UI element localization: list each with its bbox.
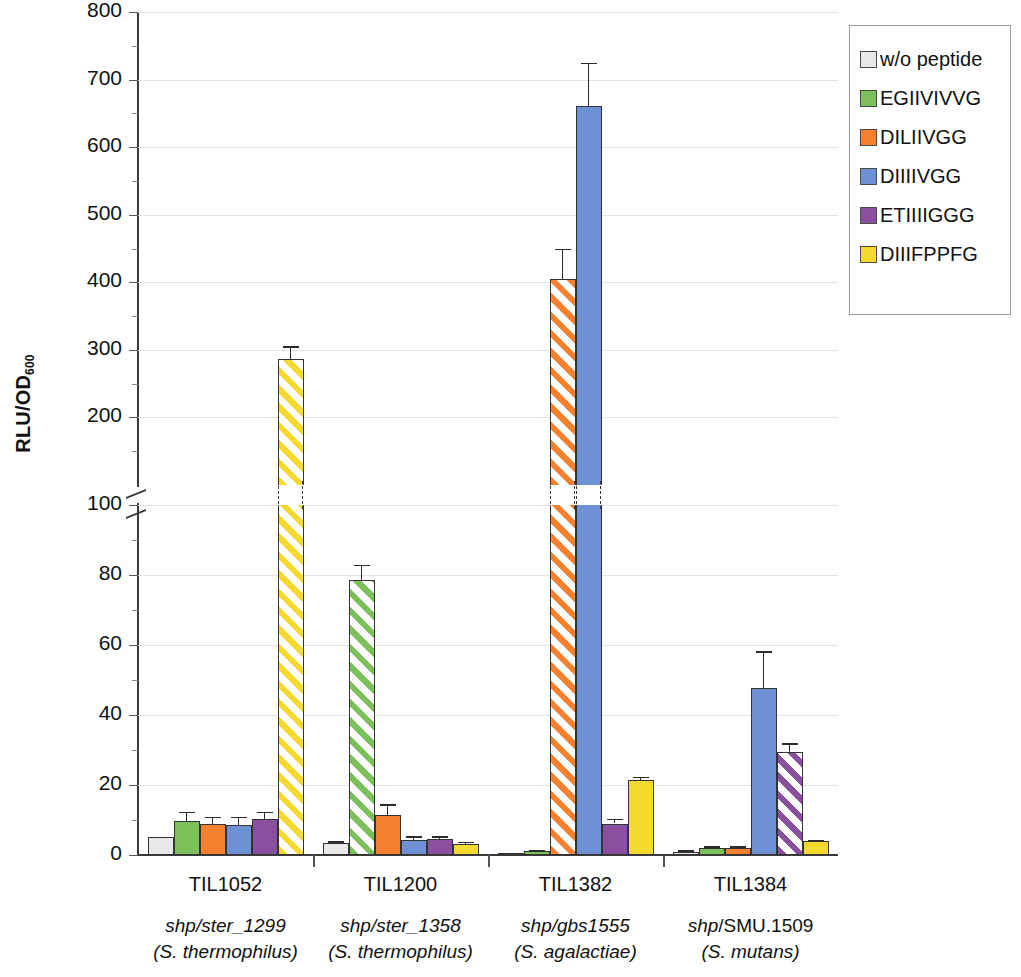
minor-tick-550 <box>132 181 138 182</box>
legend-item-5: DIIIFPPFG <box>860 235 1010 274</box>
minor-tick-450 <box>132 249 138 250</box>
error-bar-cap <box>730 846 746 848</box>
gridline-400 <box>138 282 838 283</box>
error-bar-cap <box>555 249 571 251</box>
y-tick-label-600: 600 <box>87 133 122 157</box>
legend-swatch-icon <box>860 168 877 185</box>
bar <box>803 841 829 855</box>
error-bar <box>588 63 590 106</box>
error-bar-cap <box>406 836 422 838</box>
minor-tick-70 <box>132 610 138 611</box>
bar <box>453 844 479 855</box>
y-tick-label-800: 800 <box>87 0 122 22</box>
gridline-600 <box>138 147 838 148</box>
major-tick-20 <box>129 785 138 786</box>
error-bar-cap <box>205 817 221 819</box>
bar <box>148 837 174 855</box>
error-bar-cap <box>231 817 247 819</box>
minor-tick-10 <box>132 820 138 821</box>
legend-label: DIIIFPPFG <box>880 243 978 266</box>
minor-tick-350 <box>132 316 138 317</box>
y-axis-title-subscript: 600 <box>23 354 37 375</box>
legend-label: w/o peptide <box>880 48 982 71</box>
gridline-100 <box>138 505 838 506</box>
error-bar-cap <box>704 846 720 848</box>
error-bar-cap <box>328 841 344 843</box>
bar <box>602 824 628 856</box>
error-bar-cap <box>581 63 597 65</box>
bar <box>777 752 803 855</box>
bar-break-edge-1 <box>576 481 577 509</box>
bar <box>401 840 427 855</box>
x-group-gene-name: shp/SMU.1509 <box>631 913 871 939</box>
bar <box>725 848 751 855</box>
y-tick-label-40: 40 <box>99 701 122 725</box>
minor-tick-90 <box>132 540 138 541</box>
gridline-500 <box>138 215 838 216</box>
y-tick-label-0: 0 <box>110 841 122 865</box>
y-axis-title-main: RLU/OD <box>12 375 34 453</box>
y-axis-line <box>137 12 139 855</box>
error-bar-cap <box>756 651 772 653</box>
legend-item-2: DILIIVGG <box>860 118 1010 157</box>
y-tick-label-200: 200 <box>87 403 122 427</box>
legend-item-3: DIIIIVGG <box>860 157 1010 196</box>
x-group-species-name: (S. mutans) <box>631 939 871 965</box>
bar <box>200 824 226 855</box>
error-bar-cap <box>678 850 694 852</box>
bar-upper-segment <box>576 106 602 485</box>
y-tick-label-60: 60 <box>99 631 122 655</box>
legend-label: ETIIIIGGG <box>880 204 974 227</box>
error-bar <box>763 651 765 688</box>
minor-tick-750 <box>132 46 138 47</box>
legend-swatch-icon <box>860 207 877 224</box>
x-group-sublabel-til1384: shp/SMU.1509(S. mutans) <box>631 913 871 964</box>
bar <box>498 853 524 855</box>
gridline-40 <box>138 715 838 716</box>
x-axis-separator-tick <box>663 855 665 867</box>
minor-tick-30 <box>132 750 138 751</box>
y-tick-label-100: 100 <box>87 491 122 515</box>
bar-break-edge-1 <box>550 481 551 509</box>
bar-lower-segment <box>550 505 576 855</box>
x-group-label-til1384: TIL1384 <box>641 873 861 896</box>
error-bar-cap <box>283 346 299 348</box>
error-bar-cap <box>633 777 649 779</box>
legend-label: DILIIVGG <box>880 126 967 149</box>
y-tick-label-500: 500 <box>87 201 122 225</box>
bar-break-edge-2 <box>302 481 303 509</box>
bar <box>375 815 401 855</box>
bar-upper-segment <box>550 279 576 485</box>
error-bar-cap <box>529 850 545 852</box>
error-bar-cap <box>808 840 824 842</box>
major-tick-80 <box>129 575 138 576</box>
error-bar <box>562 249 564 279</box>
legend-label: EGIIVIVVG <box>880 87 981 110</box>
major-tick-40 <box>129 715 138 716</box>
bar-upper-segment <box>278 359 304 485</box>
bar-lower-segment <box>278 505 304 855</box>
legend-item-4: ETIIIIGGG <box>860 196 1010 235</box>
legend-swatch-icon <box>860 90 877 107</box>
legend-swatch-icon <box>860 51 877 68</box>
gridline-80 <box>138 575 838 576</box>
error-bar-cap <box>458 842 474 844</box>
bar <box>699 848 725 855</box>
bar <box>323 843 349 855</box>
legend-swatch-icon <box>860 246 877 263</box>
y-tick-label-80: 80 <box>99 561 122 585</box>
legend-swatch-icon <box>860 129 877 146</box>
major-tick-200 <box>129 417 138 418</box>
plot-area <box>138 12 838 855</box>
bar-break-edge-1 <box>278 481 279 509</box>
error-bar-cap <box>432 836 448 838</box>
bar-chart: RLU/OD600 020406080100200300400500600700… <box>0 0 1021 977</box>
gridline-60 <box>138 645 838 646</box>
major-tick-300 <box>129 350 138 351</box>
bar <box>673 852 699 856</box>
legend-item-0: w/o peptide <box>860 40 1010 79</box>
major-tick-600 <box>129 147 138 148</box>
gridline-800 <box>138 12 838 13</box>
bar-lower-segment <box>576 505 602 855</box>
legend-label: DIIIIVGG <box>880 165 961 188</box>
